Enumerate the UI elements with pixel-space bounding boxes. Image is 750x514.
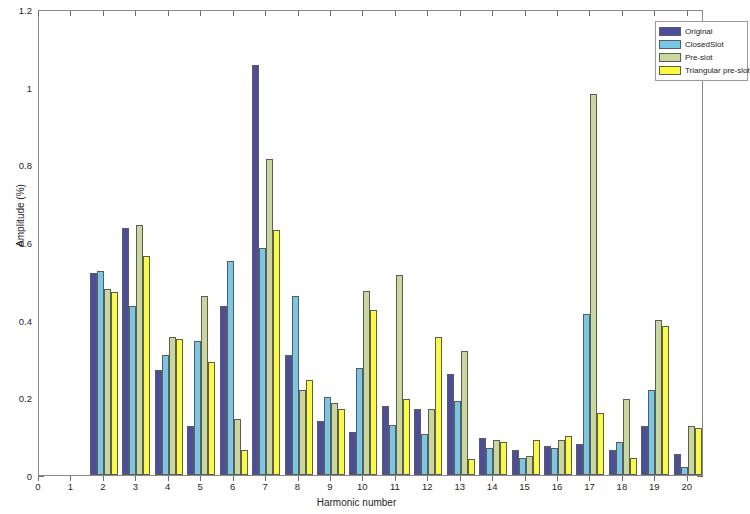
x-tick-mark — [427, 476, 428, 481]
bar — [623, 399, 630, 475]
bar — [176, 339, 183, 475]
y-tick-mark — [38, 476, 44, 477]
bar-group — [479, 11, 507, 475]
x-tick-label: 20 — [672, 481, 702, 492]
bar — [208, 362, 215, 475]
bar — [655, 320, 662, 475]
bar-group — [317, 11, 345, 475]
bar-group — [382, 11, 410, 475]
bar — [292, 296, 299, 475]
bar-group — [90, 11, 118, 475]
x-tick-mark — [362, 476, 363, 481]
bar — [616, 442, 623, 475]
bar — [479, 438, 486, 475]
bar — [331, 403, 338, 475]
bars-layer — [39, 11, 702, 475]
bar — [285, 355, 292, 475]
bar — [609, 450, 616, 475]
bar — [194, 341, 201, 475]
bar — [299, 390, 306, 475]
bar — [97, 271, 104, 475]
legend: Original ClosedSlot Pre-slot Triangular … — [655, 21, 748, 81]
bar — [338, 409, 345, 475]
x-tick-label: 2 — [88, 481, 118, 492]
bar-group — [512, 11, 540, 475]
bar-group — [447, 11, 475, 475]
bar — [187, 426, 194, 475]
bar — [447, 374, 454, 475]
bar — [104, 289, 111, 475]
legend-item-closedslot: ClosedSlot — [659, 38, 744, 51]
bar — [403, 399, 410, 475]
bar — [428, 409, 435, 475]
x-tick-mark — [103, 476, 104, 481]
bar — [533, 440, 540, 475]
x-tick-mark — [492, 476, 493, 481]
x-tick-label: 0 — [23, 481, 53, 492]
bar — [370, 310, 377, 475]
bar — [363, 291, 370, 475]
bar — [695, 428, 702, 475]
x-tick-label: 8 — [283, 481, 313, 492]
legend-swatch-triangular-preslot — [659, 66, 681, 75]
bar — [641, 426, 648, 475]
x-tick-mark — [265, 476, 266, 481]
bar — [273, 230, 280, 475]
bar — [493, 440, 500, 475]
x-tick-mark — [168, 476, 169, 481]
x-tick-label: 10 — [347, 481, 377, 492]
x-tick-mark — [622, 476, 623, 481]
x-tick-label: 4 — [153, 481, 183, 492]
bar-group — [544, 11, 572, 475]
bar — [324, 397, 331, 475]
bar-group — [576, 11, 604, 475]
bar — [590, 94, 597, 475]
x-tick-mark — [395, 476, 396, 481]
bar — [306, 380, 313, 475]
y-tick-label: 1.2 — [0, 5, 32, 16]
bar — [461, 351, 468, 475]
plot-area: Original ClosedSlot Pre-slot Triangular … — [38, 10, 703, 476]
y-tick-label: 0.4 — [0, 315, 32, 326]
bar — [648, 390, 655, 475]
bar-group — [349, 11, 377, 475]
y-tick-mark-right — [697, 476, 703, 477]
legend-swatch-closedslot — [659, 40, 681, 49]
legend-label-closedslot: ClosedSlot — [685, 40, 724, 49]
bar — [512, 450, 519, 475]
bar — [155, 370, 162, 475]
x-tick-label: 13 — [445, 481, 475, 492]
x-tick-mark — [200, 476, 201, 481]
x-tick-label: 16 — [542, 481, 572, 492]
bar-group — [220, 11, 248, 475]
x-tick-mark — [298, 476, 299, 481]
bar — [486, 448, 493, 475]
bar — [565, 436, 572, 475]
x-tick-label: 14 — [477, 481, 507, 492]
x-tick-mark — [589, 476, 590, 481]
bar-group — [252, 11, 280, 475]
bar — [169, 337, 176, 475]
bar — [241, 450, 248, 475]
x-tick-label: 9 — [315, 481, 345, 492]
x-axis-title: Harmonic number — [0, 497, 713, 508]
bar — [220, 306, 227, 475]
x-tick-mark — [70, 476, 71, 481]
x-tick-mark — [557, 476, 558, 481]
bar — [435, 337, 442, 475]
legend-label-triangular-preslot: Triangular pre-slot — [685, 66, 750, 75]
bar — [162, 355, 169, 475]
bar — [558, 440, 565, 475]
x-tick-label: 17 — [574, 481, 604, 492]
x-tick-label: 3 — [120, 481, 150, 492]
legend-item-triangular-preslot: Triangular pre-slot — [659, 64, 744, 77]
legend-label-preslot: Pre-slot — [685, 53, 713, 62]
bar — [389, 425, 396, 475]
bar — [396, 275, 403, 475]
bar-group — [414, 11, 442, 475]
bar — [597, 413, 604, 475]
legend-swatch-preslot — [659, 53, 681, 62]
bar — [421, 434, 428, 475]
legend-item-preslot: Pre-slot — [659, 51, 744, 64]
bar — [349, 432, 356, 475]
